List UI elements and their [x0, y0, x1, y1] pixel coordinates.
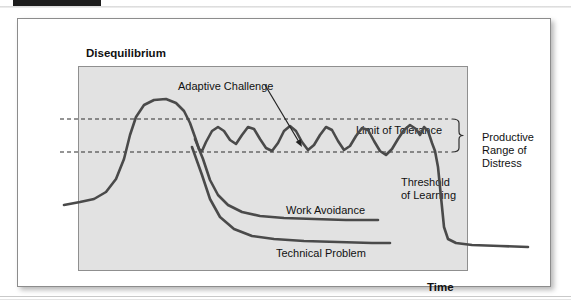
top-divider-rule: [0, 6, 571, 8]
bottom-divider-rule-secondary: [0, 299, 571, 300]
annotation-arrow-adaptive-challenge: [265, 85, 302, 147]
series-line-work-avoidance: [195, 139, 378, 220]
series-line-technical-problem: [192, 147, 390, 243]
bottom-divider-rule: [0, 296, 571, 297]
chart-svg: [17, 18, 551, 287]
brace-productive-range: [452, 119, 463, 152]
